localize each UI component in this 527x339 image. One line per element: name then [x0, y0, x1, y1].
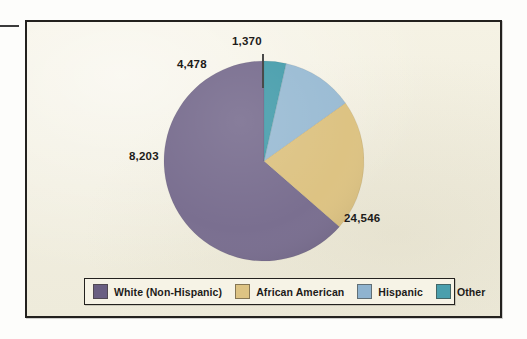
legend-item-white-non-hispanic: White (Non-Hispanic): [93, 284, 222, 299]
value-label-white-non-hispanic: 24,546: [344, 212, 380, 224]
pie-sheen-overlay: [164, 61, 364, 261]
figure-frame: 1,370 4,478 8,203 24,546 White (Non-Hisp…: [25, 20, 502, 318]
scanned-page: 1,370 4,478 8,203 24,546 White (Non-Hisp…: [0, 0, 527, 339]
legend-item-african-american: African American: [235, 284, 344, 299]
margin-rule-artifact: [0, 25, 19, 27]
leader-line-other: [262, 54, 264, 88]
legend-swatch-white-non-hispanic: [93, 284, 108, 299]
value-label-hispanic: 4,478: [177, 58, 207, 70]
legend-label-white-non-hispanic: White (Non-Hispanic): [114, 286, 222, 298]
legend-label-hispanic: Hispanic: [378, 286, 423, 298]
legend-swatch-hispanic: [357, 284, 372, 299]
legend-item-hispanic: Hispanic: [357, 284, 423, 299]
legend-swatch-african-american: [235, 284, 250, 299]
legend-label-other: Other: [457, 286, 486, 298]
value-label-african-american: 8,203: [129, 150, 159, 162]
legend-label-african-american: African American: [256, 286, 344, 298]
legend-item-other: Other: [436, 284, 486, 299]
legend-swatch-other: [436, 284, 451, 299]
chart-legend: White (Non-Hispanic) African American Hi…: [84, 278, 455, 305]
value-label-other: 1,370: [232, 35, 262, 47]
